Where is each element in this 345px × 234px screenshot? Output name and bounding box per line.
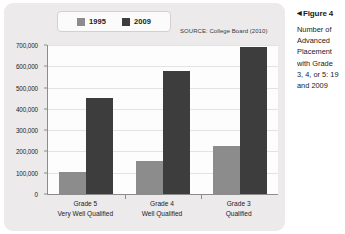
legend-entry-1995: 1995 xyxy=(77,17,106,26)
category-label-line1: Grade 4 xyxy=(124,199,201,209)
bar-group xyxy=(136,45,190,194)
category-label-line2: Very Well Qualified xyxy=(47,209,124,219)
caption-body: Number ofAdvancedPlacementwith Grade3, 4… xyxy=(297,24,345,91)
x-axis-category-label: Grade 5Very Well Qualified xyxy=(47,199,124,218)
y-axis-tick-label: 0 xyxy=(35,191,38,198)
source-note: SOURCE: College Board (2010) xyxy=(180,28,267,34)
bar-1995 xyxy=(136,161,163,194)
y-axis-tick-label: 100,000 xyxy=(16,169,38,176)
plot-wrapper: 0100,000200,000300,000400,000500,000600,… xyxy=(4,45,285,195)
y-axis: 0100,000200,000300,000400,000500,000600,… xyxy=(4,45,44,195)
x-axis-category-label: Grade 3Qualified xyxy=(200,199,277,218)
bar-group xyxy=(213,45,267,194)
caption-line: with Grade xyxy=(297,58,345,69)
caption-line: Number of xyxy=(297,24,345,35)
caption-line: 3, 4, or 5: 19 xyxy=(297,69,345,80)
figure-container: 1995 2009 SOURCE: College Board (2010) 0… xyxy=(0,0,345,234)
bar-group xyxy=(59,45,113,194)
legend-label-1995: 1995 xyxy=(89,17,106,26)
x-axis-category-label: Grade 4Well Qualified xyxy=(124,199,201,218)
y-axis-tick-label: 300,000 xyxy=(16,127,38,134)
category-label-line1: Grade 5 xyxy=(47,199,124,209)
caption-heading-text: Figure 4 xyxy=(303,9,333,18)
legend-swatch-2009 xyxy=(122,18,130,26)
bar-2009 xyxy=(163,71,190,194)
category-label-line2: Well Qualified xyxy=(124,209,201,219)
y-axis-tick-label: 200,000 xyxy=(16,148,38,155)
legend-swatch-1995 xyxy=(77,18,85,26)
legend-entry-2009: 2009 xyxy=(122,17,151,26)
caption-line: and 2009 xyxy=(297,80,345,91)
category-label-line2: Qualified xyxy=(200,209,277,219)
plot-area xyxy=(47,45,278,195)
bar-2009 xyxy=(86,98,113,194)
axis-baseline xyxy=(48,194,278,195)
caption-heading: ◀Figure 4 xyxy=(297,9,345,18)
legend-label-2009: 2009 xyxy=(134,17,151,26)
bar-2009 xyxy=(240,47,267,194)
chart-legend: 1995 2009 xyxy=(57,11,171,32)
y-axis-tick-label: 500,000 xyxy=(16,84,38,91)
caption-line: Advanced xyxy=(297,35,345,46)
category-label-line1: Grade 3 xyxy=(200,199,277,209)
bar-1995 xyxy=(59,172,86,194)
bar-1995 xyxy=(213,146,240,194)
x-axis-labels: Grade 5Very Well QualifiedGrade 4Well Qu… xyxy=(47,199,277,229)
figure-caption: ◀Figure 4 Number ofAdvancedPlacementwith… xyxy=(297,9,345,91)
caption-line: Placement xyxy=(297,46,345,57)
y-axis-tick-label: 400,000 xyxy=(16,105,38,112)
caption-arrow-icon: ◀ xyxy=(297,10,302,16)
y-axis-tick-label: 600,000 xyxy=(16,63,38,70)
chart-panel: 1995 2009 SOURCE: College Board (2010) 0… xyxy=(4,3,285,231)
y-axis-tick-label: 700,000 xyxy=(16,42,38,49)
